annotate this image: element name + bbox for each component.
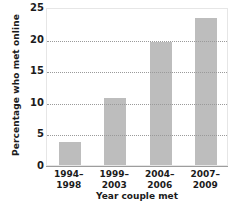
x-axis-title: Year couple met [46,191,228,201]
gridline [47,72,227,73]
x-axis-line [46,166,228,167]
y-axis-tick-label: 5 [26,129,44,139]
y-axis-tick-label: 0 [26,161,44,171]
bars-layer [47,9,227,165]
x-axis-tick-label: 2004–2006 [136,169,184,191]
y-axis-tick-label: 20 [26,35,44,45]
y-axis-tick-label: 25 [26,3,44,13]
y-axis-tick-labels: 0510152025 [26,0,44,204]
gridline [47,41,227,42]
bar [59,142,81,165]
x-axis-tick-label: 2007–2009 [181,169,229,191]
x-axis-tick-label: 1999–2003 [90,169,138,191]
y-axis-title: Percentage who met online [11,5,21,165]
bar-chart: Percentage who met online 0510152025 199… [0,0,242,204]
bar [104,98,126,165]
y-axis-tick-label: 10 [26,98,44,108]
gridline [47,104,227,105]
plot-area [46,8,228,166]
y-axis-tick-label: 15 [26,66,44,76]
x-axis-tick-label: 1994–1998 [45,169,93,191]
gridline [47,135,227,136]
